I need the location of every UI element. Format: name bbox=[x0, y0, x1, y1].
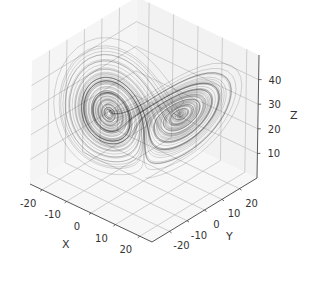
x-tick bbox=[138, 236, 140, 238]
x-tick-label: 0 bbox=[74, 221, 80, 232]
z-tick-label: 40 bbox=[269, 75, 282, 86]
y-tick bbox=[170, 231, 172, 233]
z-tick-label: 20 bbox=[268, 124, 281, 135]
y-tick bbox=[205, 210, 207, 212]
y-tick-label: 10 bbox=[228, 208, 241, 219]
x-tick bbox=[89, 213, 91, 215]
y-tick bbox=[240, 189, 242, 191]
y-tick-label: -10 bbox=[191, 230, 207, 241]
x-tick bbox=[113, 225, 115, 227]
x-tick bbox=[40, 190, 42, 192]
z-axis-label: Z bbox=[290, 109, 298, 122]
z-tick-label: 30 bbox=[268, 99, 281, 110]
y-tick-label: 0 bbox=[213, 219, 219, 230]
y-tick bbox=[187, 221, 189, 223]
x-axis-label: X bbox=[62, 238, 70, 251]
x-tick-label: -20 bbox=[20, 198, 36, 209]
y-axis-label: Y bbox=[225, 230, 233, 243]
y-tick bbox=[222, 199, 224, 201]
x-tick-label: 10 bbox=[95, 233, 108, 244]
y-tick-label: -20 bbox=[173, 240, 189, 251]
x-tick-label: -10 bbox=[44, 209, 60, 220]
x-tick bbox=[65, 201, 67, 203]
z-tick-label: 10 bbox=[267, 148, 280, 159]
x-tick-label: 20 bbox=[119, 244, 132, 255]
y-tick-label: 20 bbox=[245, 198, 258, 209]
lorenz-3d-chart: -20-1001020-20-100102010203040 X Y Z bbox=[0, 0, 315, 281]
